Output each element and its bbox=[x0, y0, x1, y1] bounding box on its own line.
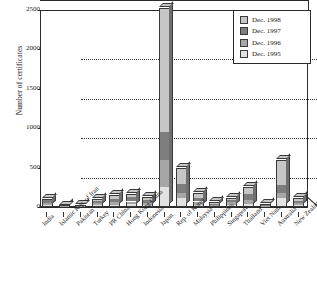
legend-swatch bbox=[240, 16, 248, 24]
bar-side-face bbox=[169, 2, 173, 204]
legend-item: Dec. 1995 bbox=[237, 49, 307, 61]
bar-top-face bbox=[59, 201, 74, 205]
legend-swatch bbox=[240, 27, 248, 35]
legend-item: Dec. 1997 bbox=[237, 26, 307, 38]
legend-swatch bbox=[240, 50, 248, 58]
bar-segment bbox=[126, 197, 137, 201]
chart-figure: Number of certificates 05001000150020002… bbox=[0, 0, 317, 281]
y-tick-label: 500 bbox=[14, 164, 40, 171]
legend-label: Dec. 1998 bbox=[252, 16, 281, 24]
bar-segment bbox=[209, 204, 220, 205]
bar-segment bbox=[126, 194, 137, 197]
y-tick-label: 2000 bbox=[14, 45, 40, 52]
y-tick-label: 2500 bbox=[14, 6, 40, 13]
bar-segment bbox=[260, 204, 271, 205]
legend-label: Dec. 1995 bbox=[252, 50, 281, 58]
y-tick-label: 0 bbox=[14, 203, 40, 210]
y-tick-label: 1000 bbox=[14, 124, 40, 131]
legend-label: Dec. 1996 bbox=[252, 39, 281, 47]
bar-side-face bbox=[186, 161, 190, 204]
bar-segment bbox=[126, 202, 137, 205]
x-tick-label: India bbox=[41, 212, 56, 227]
x-tick-label: Japan bbox=[158, 211, 174, 227]
bar-segment bbox=[59, 205, 70, 206]
y-tick-label: 1500 bbox=[14, 85, 40, 92]
y-axis-tick-labels: 05001000150020002500 bbox=[10, 0, 40, 215]
bar-top-face bbox=[260, 199, 275, 203]
legend-item: Dec. 1998 bbox=[237, 14, 307, 26]
chart-legend: Dec. 1998Dec. 1997Dec. 1996Dec. 1995 bbox=[233, 10, 311, 64]
bar-side-face bbox=[286, 153, 290, 204]
legend-label: Dec. 1997 bbox=[252, 27, 281, 35]
x-axis-labels: IndiaIslamic Rep. of IranPakistanTurkeyP… bbox=[0, 212, 317, 281]
legend-swatch bbox=[240, 39, 248, 47]
legend-item: Dec. 1996 bbox=[237, 37, 307, 49]
